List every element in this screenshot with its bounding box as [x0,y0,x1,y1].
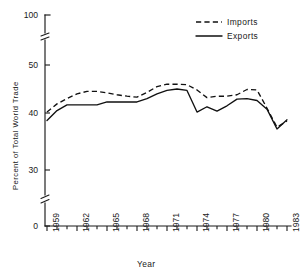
tick-marks-group [45,65,287,231]
y-tick-label: 100 [12,10,38,20]
legend-label-exports: Exports [227,31,258,41]
legend-sample-lines [196,22,222,36]
x-tick-label: 1980 [261,213,271,232]
series-line-exports [47,89,287,129]
x-tick-label: 1974 [201,213,211,232]
x-tick-label: 1971 [171,213,181,232]
legend-label-imports: Imports [227,17,258,27]
data-series-group [47,84,287,129]
x-tick-label: 1968 [141,213,151,232]
x-tick-label: 1959 [51,213,61,232]
chart-plot-area [0,0,304,276]
x-axis-title: Year [137,259,155,269]
y-axis-title: Percent of Total World Trade [11,81,20,190]
x-tick-label: 1962 [81,213,91,232]
y-tick-label: 50 [12,60,38,70]
x-tick-label: 1977 [231,213,241,232]
x-tick-label: 1965 [111,213,121,232]
x-tick-label: 1983 [291,213,301,232]
axes-group [41,15,291,226]
y-tick-label: 0 [12,221,38,231]
chart-figure: 0304050100 19591962196519681971197419771… [0,0,304,276]
